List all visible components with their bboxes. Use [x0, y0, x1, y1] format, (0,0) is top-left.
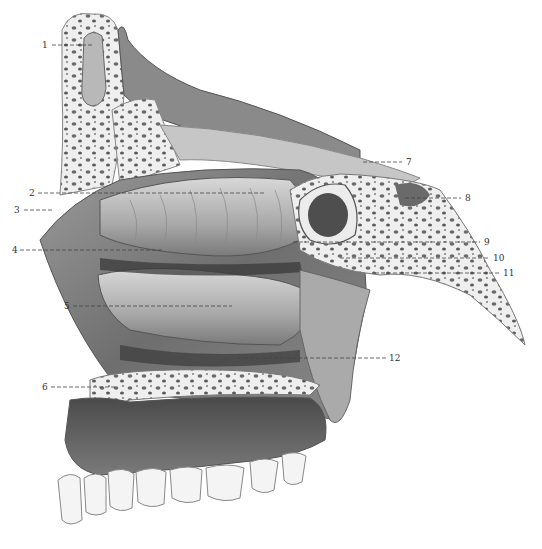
label-10: 10	[493, 253, 504, 263]
frontal-bone	[60, 13, 124, 195]
label-3: 3	[14, 205, 20, 215]
label-11: 11	[503, 268, 514, 278]
sphenoid-sinus-opening	[308, 193, 348, 237]
label-5: 5	[64, 301, 70, 311]
label-8: 8	[465, 193, 471, 203]
label-2: 2	[29, 188, 35, 198]
label-7: 7	[406, 157, 412, 167]
label-4: 4	[12, 245, 18, 255]
label-1: 1	[42, 40, 48, 50]
label-6: 6	[42, 382, 48, 392]
label-12: 12	[389, 353, 400, 363]
label-9: 9	[484, 237, 490, 247]
frontal-sinus	[82, 32, 106, 106]
nasal-cavity-illustration	[0, 0, 542, 549]
